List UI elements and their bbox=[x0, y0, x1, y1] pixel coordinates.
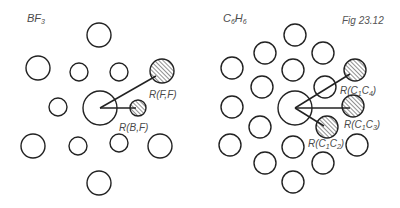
atom-circle bbox=[221, 57, 243, 79]
hatched-atom-circle bbox=[344, 59, 366, 81]
atom-circle bbox=[110, 63, 128, 81]
label-r-c1-c3: R(C1C3) bbox=[344, 120, 380, 131]
atom-circle bbox=[346, 134, 368, 156]
atom-circle bbox=[284, 24, 306, 46]
atom-circle bbox=[70, 63, 88, 81]
atom-circle bbox=[221, 96, 243, 118]
atom-circle bbox=[312, 152, 334, 174]
distance-vector-line bbox=[295, 108, 324, 126]
atom-circle bbox=[21, 134, 45, 158]
atom-circle bbox=[249, 116, 271, 138]
label-r-c1-c4: R(C1C4) bbox=[340, 86, 376, 97]
label-r-f-f: R(F,F) bbox=[149, 90, 177, 100]
atom-circle bbox=[69, 137, 87, 155]
hatched-atom-circle bbox=[316, 116, 338, 138]
label-r-b-f: R(B,F) bbox=[119, 123, 148, 133]
atom-circle bbox=[110, 134, 128, 152]
diagram-canvas: BF3 C6H6 Fig 23.12 R(F,F) R(B,F) R(C1C4)… bbox=[0, 0, 400, 208]
atom-circle bbox=[251, 76, 273, 98]
atom-circle bbox=[87, 23, 111, 47]
atom-circle bbox=[49, 98, 67, 116]
atom-circle bbox=[148, 134, 172, 158]
hatched-atom-circle bbox=[342, 95, 364, 117]
figure-label: Fig 23.12 bbox=[342, 16, 384, 26]
molecular-diagram bbox=[0, 0, 400, 208]
atom-circle bbox=[312, 42, 334, 64]
label-r-c1-c2: R(C1C2) bbox=[308, 139, 344, 150]
atom-circle bbox=[282, 59, 304, 81]
hatched-atom-circle bbox=[150, 59, 174, 83]
distance-vector-line bbox=[100, 76, 156, 108]
bf3-title: BF3 bbox=[27, 13, 45, 25]
atom-circle bbox=[219, 134, 241, 156]
atom-circle bbox=[282, 171, 304, 193]
atom-circle bbox=[254, 152, 276, 174]
atom-circle bbox=[87, 171, 111, 195]
c6h6-structure bbox=[219, 24, 368, 193]
atom-circle bbox=[26, 56, 50, 80]
atom-circle bbox=[254, 42, 276, 64]
bf3-structure bbox=[21, 23, 174, 195]
atom-circle bbox=[282, 136, 304, 158]
c6h6-title: C6H6 bbox=[223, 13, 247, 25]
